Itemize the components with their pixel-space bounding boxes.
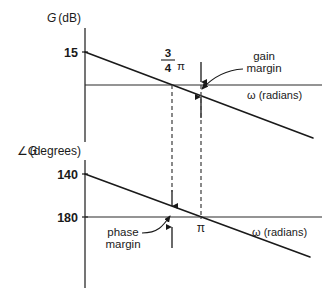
crossover-fraction-label: 3 4 π — [161, 47, 185, 74]
phase-ytick-label-140: 140 — [57, 168, 78, 182]
magnitude-y-axis-label-symbol: G — [47, 11, 56, 25]
phase-margin-leader — [142, 216, 170, 233]
magnitude-ytick-label-15: 15 — [64, 46, 78, 60]
phase-margin-label-line1: phase — [107, 226, 138, 238]
phase-x-axis-label: ω (radians) — [252, 226, 307, 238]
magnitude-y-axis-label-units: (dB) — [58, 11, 81, 25]
fraction-numerator: 3 — [165, 47, 171, 59]
gain-margin-leader — [202, 69, 243, 89]
phase-ytick-label-180: 180 — [57, 211, 78, 225]
phase-subplot: ∠G (degrees) 140 180 ω (radians) π phase… — [17, 144, 322, 288]
vertical-guides — [172, 85, 201, 219]
magnitude-subplot: G (dB) 15 ω (radians) 3 4 π gain margin — [47, 11, 322, 142]
gain-margin-label-line2: margin — [246, 62, 281, 74]
gain-margin-label-line1: gain — [253, 50, 275, 62]
bode-plot-figure: G (dB) 15 ω (radians) 3 4 π gain margin — [0, 0, 327, 299]
bode-plot-canvas: G (dB) 15 ω (radians) 3 4 π gain margin — [0, 0, 327, 299]
phase-crossover-pi-label: π — [197, 221, 205, 235]
phase-y-axis-label-units: (degrees) — [30, 144, 81, 158]
fraction-denominator: 4 — [165, 62, 172, 74]
fraction-pi-symbol: π — [177, 60, 185, 72]
magnitude-x-axis-label: ω (radians) — [247, 89, 302, 101]
phase-margin-label-line2: margin — [105, 238, 140, 250]
